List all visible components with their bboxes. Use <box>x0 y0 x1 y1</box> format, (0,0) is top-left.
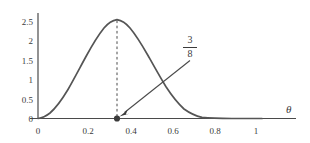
x-tick-label-0.6: 0.6 <box>160 127 186 136</box>
y-tick-label-2.5: 2.5 <box>0 18 33 27</box>
annotation-arrow-head <box>120 110 130 117</box>
chart-figure: 2.5 2 1.5 1 0.5 0 0 0.2 0.4 0.6 0.8 1 θ … <box>0 0 310 143</box>
fraction-denominator: 8 <box>183 49 197 60</box>
annotation-fraction-three-eighths: 3 8 <box>183 35 197 59</box>
y-tick-label-0.5: 0.5 <box>0 96 33 105</box>
y-tick-label-1.5: 1.5 <box>0 57 33 66</box>
y-tick-label-1: 1 <box>0 76 33 85</box>
x-axis-label-theta: θ <box>286 104 291 115</box>
y-tick-label-2: 2 <box>0 37 33 46</box>
y-tick-label-0: 0 <box>0 115 33 124</box>
density-curve <box>38 20 262 119</box>
x-tick-label-0.2: 0.2 <box>75 127 101 136</box>
mode-point-marker <box>114 115 120 121</box>
fraction-numerator: 3 <box>183 35 197 46</box>
x-tick-label-1: 1 <box>244 127 268 136</box>
x-tick-label-0.4: 0.4 <box>118 127 144 136</box>
chart-canvas <box>0 0 310 143</box>
x-tick-label-0: 0 <box>26 127 50 136</box>
x-tick-label-0.8: 0.8 <box>202 127 228 136</box>
